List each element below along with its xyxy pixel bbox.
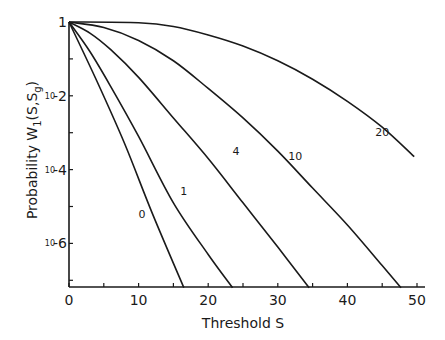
svg-text:Probability W1(S,Sg): Probability W1(S,Sg) [24,81,43,219]
y-axis-label: Probability W1(S,Sg) [24,81,43,219]
y-tick-label: 1 [58,14,67,30]
curve-label-20: 20 [375,126,389,139]
chart: 01020304050110-210-410-60141020Threshold… [0,0,445,340]
x-axis-label: Threshold S [201,315,284,331]
y-tick-label: -4 [53,162,67,178]
curve-label-1: 1 [180,185,187,198]
y-tick-label: -6 [53,235,67,251]
x-tick-label: 0 [65,292,74,308]
curve-label-4: 4 [233,145,240,158]
x-tick-label: 50 [408,292,426,308]
curve-4 [69,22,309,288]
curve-label-10: 10 [288,150,302,163]
x-tick-label: 20 [199,292,217,308]
curve-1 [69,22,233,288]
x-tick-label: 40 [338,292,356,308]
curve-0 [69,22,184,288]
curve-label-0: 0 [139,208,146,221]
x-tick-label: 10 [130,292,148,308]
x-tick-label: 30 [269,292,287,308]
y-tick-label: -2 [53,88,67,104]
